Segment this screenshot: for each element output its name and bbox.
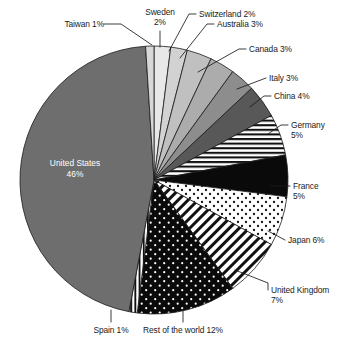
slice-label-germany-percent: 5%	[291, 130, 325, 140]
slice-label-japan: Japan 6%	[288, 235, 324, 245]
slice-label-us-name: United States	[20, 158, 130, 169]
slice-label-united-kingdom: United Kingdom 7%	[271, 285, 329, 305]
slice-label-canada: Canada 3%	[249, 44, 292, 54]
slice-label-spain: Spain 1%	[71, 325, 151, 335]
slice-label-sweden: Sweden 2%	[134, 7, 186, 27]
slice-label-italy: Italy 3%	[269, 73, 298, 83]
pie-slices	[20, 46, 288, 314]
slice-label-switzerland: Switzerland 2%	[199, 9, 255, 19]
slice-label-united-states: United States 46%	[20, 158, 130, 179]
slice-label-germany-name: Germany	[291, 120, 325, 130]
leader-line-taiwan	[104, 24, 152, 45]
slice-label-france: France 5%	[293, 181, 318, 201]
slice-label-uk-name: United Kingdom	[271, 285, 329, 295]
slice-label-china: China 4%	[274, 91, 310, 101]
slice-label-uk-percent: 7%	[271, 295, 329, 305]
slice-label-australia: Australia 3%	[217, 19, 263, 29]
slice-label-taiwan: Taiwan 1%	[4, 19, 104, 29]
slice-label-france-name: France	[293, 181, 318, 191]
slice-label-sweden-name: Sweden	[134, 7, 186, 17]
slice-label-sweden-percent: 2%	[134, 17, 186, 27]
slice-label-france-percent: 5%	[293, 191, 318, 201]
slice-label-germany: Germany 5%	[291, 120, 325, 140]
pie-chart: Taiwan 1% Sweden 2% Switzerland 2% Austr…	[0, 0, 354, 344]
slice-label-us-percent: 46%	[20, 169, 130, 180]
